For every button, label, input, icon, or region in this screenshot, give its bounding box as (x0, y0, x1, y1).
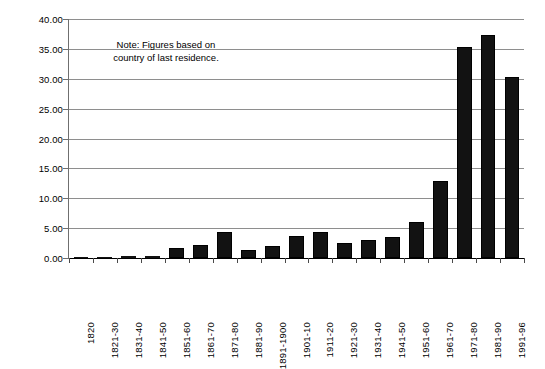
bar-slot (289, 19, 304, 258)
bar-slot (361, 19, 376, 258)
x-axis-tick-mark (500, 258, 501, 263)
x-axis-tick-mark (69, 258, 70, 263)
bar-slot (265, 19, 280, 258)
bar (481, 35, 496, 258)
y-axis-tick-label: 5.00 (5, 223, 63, 234)
x-axis-tick-mark (476, 258, 477, 263)
x-axis-tick-label: 1851-60 (181, 322, 192, 358)
x-axis-tick-label: 1961-70 (444, 322, 455, 358)
bar (433, 181, 448, 258)
bar-slot (457, 19, 472, 258)
x-axis-tick-label: 1981-90 (492, 322, 503, 358)
y-axis-tick-label: 0.00 (5, 253, 63, 264)
bar (337, 243, 352, 258)
bar-slot (337, 19, 352, 258)
x-axis-tick-label: 1991-96 (516, 322, 527, 358)
bar (265, 246, 280, 258)
x-axis-tick-label: 1971-80 (468, 322, 479, 358)
y-axis-tick-label: 30.00 (5, 73, 63, 84)
bar (505, 77, 520, 258)
x-axis-tick-mark (213, 258, 214, 263)
x-axis-tick-label: 1951-60 (420, 322, 431, 358)
chart-note-line-1: Note: Figures based on (86, 38, 246, 51)
y-axis-tick-label: 15.00 (5, 163, 63, 174)
x-axis-tick-label: 1881-90 (253, 322, 264, 358)
bar (409, 222, 424, 258)
x-axis-tick-mark (356, 258, 357, 263)
y-axis-tick-label: 40.00 (5, 14, 63, 25)
bar-slot (385, 19, 400, 258)
x-axis-tick-label: 1931-40 (372, 322, 383, 358)
bar-slot (505, 19, 520, 258)
x-axis-tick-mark (524, 258, 525, 263)
bar-slot (433, 19, 448, 258)
x-axis-tick-label: 1921-30 (348, 322, 359, 358)
x-axis-tick-mark (141, 258, 142, 263)
x-axis-tick-mark (237, 258, 238, 263)
bar (361, 240, 376, 258)
x-axis-tick-mark (261, 258, 262, 263)
y-axis-tick-label: 20.00 (5, 133, 63, 144)
x-axis-tick-label: 1891-1900 (277, 322, 288, 369)
x-axis-tick-label: 1941-50 (396, 322, 407, 358)
x-axis-tick-mark (165, 258, 166, 263)
bar-slot (409, 19, 424, 258)
x-axis-tick-label: 1861-70 (205, 322, 216, 358)
x-axis-tick-label: 1841-50 (157, 322, 168, 358)
x-axis-tick-mark (308, 258, 309, 263)
y-axis-tick-label: 10.00 (5, 193, 63, 204)
x-axis-ticks (69, 258, 524, 263)
chart-note: Note: Figures based on country of last r… (86, 38, 246, 64)
bar (169, 248, 184, 258)
x-axis-tick-mark (452, 258, 453, 263)
bar (457, 47, 472, 258)
x-axis-tick-mark (117, 258, 118, 263)
x-axis-tick-label: 1911-20 (324, 322, 335, 358)
bar (217, 232, 232, 258)
bar (241, 250, 256, 258)
x-axis: 18201821-301831-401841-501851-601861-701… (69, 264, 524, 326)
x-axis-tick-mark (285, 258, 286, 263)
bar-slot (313, 19, 328, 258)
y-axis-tick-label: 35.00 (5, 43, 63, 54)
bar (193, 245, 208, 258)
bar (313, 232, 328, 258)
x-axis-tick-mark (404, 258, 405, 263)
x-axis-tick-mark (428, 258, 429, 263)
bar (289, 236, 304, 258)
x-axis-tick-label: 1901-10 (301, 322, 312, 358)
chart-note-line-2: country of last residence. (86, 51, 246, 64)
y-axis-tick-label: 25.00 (5, 103, 63, 114)
x-axis-tick-label: 1821-30 (109, 322, 120, 358)
x-axis-tick-label: 1871-80 (229, 322, 240, 358)
bar (385, 237, 400, 258)
x-axis-tick-mark (332, 258, 333, 263)
x-axis-tick-label: 1820 (85, 322, 96, 344)
x-axis-tick-mark (189, 258, 190, 263)
x-axis-tick-mark (93, 258, 94, 263)
x-axis-tick-label: 1831-40 (133, 322, 144, 358)
x-axis-tick-mark (380, 258, 381, 263)
y-axis: 40.0035.0030.0025.0020.0015.0010.005.000… (0, 19, 63, 258)
bar-slot (481, 19, 496, 258)
